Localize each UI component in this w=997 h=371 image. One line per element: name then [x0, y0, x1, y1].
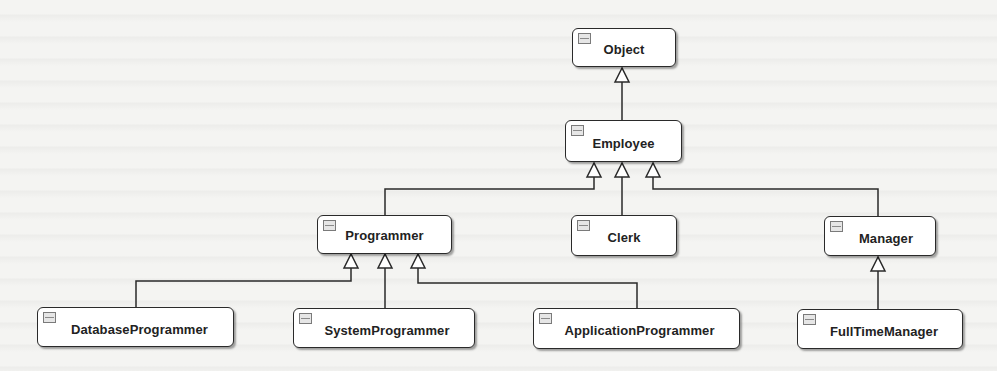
class-box-programmer[interactable]: Programmer [317, 215, 452, 254]
arrowhead-icon [871, 257, 885, 271]
class-box-database-programmer[interactable]: DatabaseProgrammer [37, 307, 234, 347]
arrowhead-icon [646, 163, 660, 177]
class-icon [571, 125, 584, 136]
edge-manager-employee [653, 163, 878, 216]
class-diagram: Object Employee Programmer Clerk Manager… [0, 0, 997, 371]
class-name: Clerk [572, 230, 676, 245]
class-box-manager[interactable]: Manager [824, 216, 936, 256]
class-name: ApplicationProgrammer [534, 323, 739, 338]
class-name: DatabaseProgrammer [38, 322, 233, 337]
arrowhead-icon [615, 68, 629, 82]
arrowhead-icon [344, 254, 358, 268]
class-box-object[interactable]: Object [572, 28, 676, 67]
class-name: Object [573, 42, 675, 57]
class-name: SystemProgrammer [294, 323, 474, 338]
edge-programmer-employee [385, 163, 594, 215]
edge-databaseprogrammer-programmer [136, 254, 351, 307]
class-name: FullTimeManager [798, 324, 962, 339]
class-name: Programmer [318, 228, 451, 243]
arrowhead-icon [615, 163, 629, 177]
arrowhead-icon [378, 254, 392, 268]
class-name: Employee [566, 136, 681, 151]
class-name: Manager [825, 231, 935, 246]
edge-applicationprogrammer-programmer [418, 254, 637, 308]
class-box-clerk[interactable]: Clerk [571, 215, 677, 256]
class-box-full-time-manager[interactable]: FullTimeManager [797, 309, 963, 349]
class-box-system-programmer[interactable]: SystemProgrammer [293, 308, 475, 348]
class-box-application-programmer[interactable]: ApplicationProgrammer [533, 308, 740, 349]
class-box-employee[interactable]: Employee [565, 120, 682, 162]
arrowhead-icon [411, 254, 425, 268]
arrowhead-icon [587, 163, 601, 177]
